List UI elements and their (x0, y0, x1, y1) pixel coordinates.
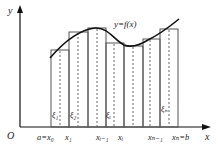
curve-label: y=f(x) (113, 19, 137, 29)
partition-label-xi-minus-1: xᵢ₋₁ (95, 132, 109, 142)
partition-label-xn-minus-1: xₙ₋₁ (147, 132, 163, 142)
origin-label: O (7, 130, 14, 141)
partition-label-x1: x₁ (64, 132, 72, 142)
riemann-sum-figure: y x O y=f(x) a=x₀ x₁ xᵢ₋₁ xᵢ xₙ₋₁ xₙ=b ξ… (0, 0, 218, 158)
sample-point-lines (60, 29, 169, 127)
x-axis-arrow-icon (202, 124, 211, 130)
partition-label-xi: xᵢ (117, 132, 123, 142)
y-axis-arrow-icon (17, 5, 23, 13)
sample-label-xi1: ξ₁ (52, 111, 58, 120)
rectangle-5 (124, 46, 143, 127)
partition-label-x0: a=x₀ (37, 132, 54, 142)
rectangle-6 (143, 39, 160, 127)
sample-label-xin: ξₙ (161, 105, 168, 114)
x-axis-label: x (204, 131, 210, 142)
partition-label-xn: xₙ=b (171, 132, 189, 142)
y-axis-label: y (7, 5, 13, 16)
sample-label-xii: ξᵢ (106, 111, 111, 120)
sample-label-xi2: ξ₂ (70, 111, 76, 120)
